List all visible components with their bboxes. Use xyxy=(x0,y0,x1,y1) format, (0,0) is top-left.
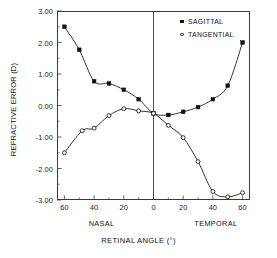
data-point xyxy=(63,25,67,29)
legend-item-sagittal: SAGITTAL xyxy=(176,16,250,27)
data-point xyxy=(80,129,84,133)
open-circle-icon xyxy=(180,33,184,37)
data-point xyxy=(62,151,66,155)
x-tick-label: 40 xyxy=(90,203,98,212)
x-tick-label: 60 xyxy=(238,203,246,212)
data-point xyxy=(196,105,200,109)
data-point xyxy=(211,97,215,101)
data-point xyxy=(122,107,126,111)
y-axis-title: REFRACTIVE ERROR (D) xyxy=(9,35,18,185)
data-point xyxy=(137,97,141,101)
region-label-nasal: NASAL xyxy=(89,219,115,228)
x-tick-label: 40 xyxy=(209,203,217,212)
data-point xyxy=(196,160,200,164)
data-point xyxy=(166,123,170,127)
legend-marker-icon xyxy=(176,20,188,23)
legend-label: SAGITTAL xyxy=(188,18,223,25)
legend-label: TANGENTIAL xyxy=(188,31,234,38)
data-point xyxy=(241,191,245,195)
x-tick-label: 20 xyxy=(179,203,187,212)
chart-legend: SAGITTALTANGENTIAL xyxy=(176,16,250,42)
data-point xyxy=(92,126,96,130)
data-point xyxy=(122,88,126,92)
legend-marker-icon xyxy=(176,33,188,37)
x-tick-label: 60 xyxy=(60,203,68,212)
data-point xyxy=(152,111,156,115)
data-point xyxy=(211,190,215,194)
chart-figure: 3.002.001.000.00-1.00-2.00-3.00 REFRACTI… xyxy=(0,0,277,258)
data-point xyxy=(107,114,111,118)
data-point xyxy=(167,113,171,117)
data-point xyxy=(92,79,96,83)
data-point xyxy=(107,82,111,86)
y-tick-label: 3.00 xyxy=(0,7,53,16)
data-point xyxy=(77,48,81,52)
data-point xyxy=(226,84,230,88)
region-label-temporal: TEMPORAL xyxy=(194,219,237,228)
data-point xyxy=(226,195,230,199)
data-point xyxy=(181,110,185,114)
filled-square-icon xyxy=(180,20,183,23)
legend-item-tangential: TANGENTIAL xyxy=(176,29,250,40)
data-point xyxy=(137,109,141,113)
y-tick-label: -3.00 xyxy=(0,196,53,205)
x-axis-title: RETINAL ANGLE (°) xyxy=(0,236,277,245)
x-tick-label: 0 xyxy=(151,203,155,212)
x-tick-label: 20 xyxy=(120,203,128,212)
data-point xyxy=(181,136,185,140)
